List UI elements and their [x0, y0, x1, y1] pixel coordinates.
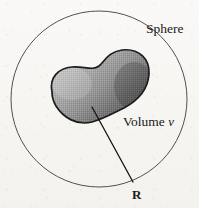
volume-label: Volume v	[123, 115, 174, 129]
volume-symbol: v	[168, 114, 174, 129]
volume-label-word: Volume	[123, 114, 165, 129]
sphere-label: Sphere	[146, 22, 184, 36]
radius-label: R	[132, 188, 141, 201]
physics-figure: Sphere Volume v R ρ	[0, 0, 199, 208]
